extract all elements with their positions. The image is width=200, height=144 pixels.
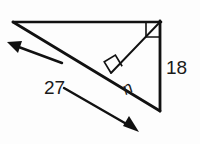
- triangle-outline: [13, 21, 161, 111]
- triangle-hypotenuse: [13, 22, 160, 111]
- altitude-segment: [111, 22, 160, 73]
- geometry-figure: 27 18 n: [0, 0, 200, 144]
- label-segment-n: n: [119, 78, 136, 99]
- triangle-diagram-svg: 27 18 n: [0, 0, 200, 144]
- hypotenuse-arrow-upper: [7, 41, 62, 63]
- label-leg-18: 18: [166, 57, 187, 78]
- label-hypotenuse-27: 27: [44, 77, 65, 98]
